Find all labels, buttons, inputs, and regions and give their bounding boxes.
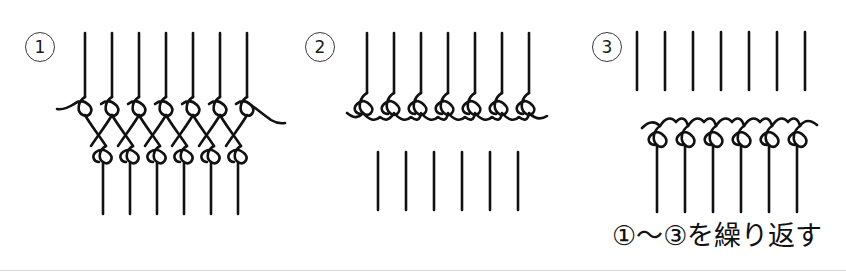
repeat-instruction-caption: ①～③を繰り返す [612, 222, 822, 249]
step-number-badge-2: 2 [305, 32, 335, 62]
diagram-page: 1 2 3 ①～③を繰り返す [0, 0, 846, 277]
step-number-badge-3: 3 [592, 32, 622, 62]
bottom-rule [0, 270, 846, 271]
step-number-badge-1: 1 [25, 32, 55, 62]
